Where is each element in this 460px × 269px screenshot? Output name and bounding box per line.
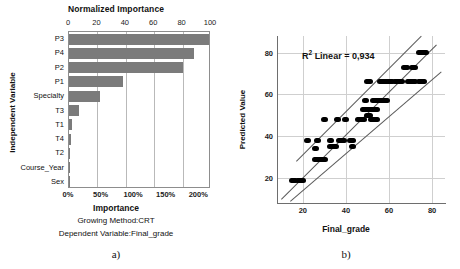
bar-chart-top-tick: 0 [66,18,70,27]
bar-chart-category-label: Sex [51,176,64,185]
scatter-plot-area [277,36,445,203]
bar-chart-bar-fill [69,62,183,73]
bar-chart-category-label: T3 [55,105,64,114]
scatter-data-point [422,50,429,55]
bar-chart-subtitle-growing-method: Growing Method:CRT [0,216,232,225]
bar-chart-bar [69,119,210,130]
bar-chart-bar [69,105,210,116]
bar-chart-top-tick: 100 [204,18,217,27]
scatter-x-axis-title: Final_grade [232,224,460,234]
bar-chart-category-label: P4 [55,48,64,57]
bar-chart-bottom-tick: 50% [93,190,108,199]
scatter-x-tick-label: 20 [299,206,307,215]
scatter-data-point [342,117,349,122]
bar-chart-category-label: P2 [55,62,64,71]
scatter-data-point [321,117,328,122]
bar-chart-top-tick: 20 [92,18,100,27]
scatter-data-point [334,117,341,122]
scatter-y-axis-ticks: 20406080 [244,36,273,204]
scatter-data-point [332,144,339,149]
bar-chart-bottom-tick: 100% [124,190,143,199]
scatter-r-squared-annotation: R2 Linear = 0,934 [302,49,374,61]
scatter-x-tick-label: 60 [385,206,393,215]
bar-chart-bar [69,162,210,173]
bar-chart-bar-fill [69,105,79,116]
bar-chart-bar-fill [69,134,71,145]
bar-chart-category-label: T4 [55,134,64,143]
scatter-y-tick-label: 20 [265,173,273,182]
scatter-data-point [314,138,321,143]
bar-chart-bar-fill [69,176,70,187]
bar-chart-bottom-axis: 0%50%100%150%200% [68,190,210,202]
bar-chart-category-label: T2 [55,148,64,157]
bar-chart-category-label: P3 [55,34,64,43]
bar-chart-bar-fill [69,119,72,130]
bar-chart-subtitle-dependent-variable: Dependent Variable:Final_grade [0,229,232,238]
scatter-data-point [373,107,380,112]
panel-a-caption: a) [0,248,232,260]
bar-chart-bar [69,76,210,87]
bar-chart-bar [69,148,210,159]
scatter-data-point [299,178,306,183]
scatter-data-point [321,157,328,162]
scatter-x-tick-label: 40 [342,206,350,215]
scatter-x-tick-label: 80 [428,206,436,215]
bar-chart-bar-fill [69,148,70,159]
bar-chart-category-label: P1 [55,76,64,85]
scatter-x-axis-ticks: 20406080 [277,206,445,218]
bar-chart-plot-area [68,31,210,188]
bar-chart-category-label: Course_Year [20,162,64,171]
panel-b-scatter-chart: Predicted Value 20406080 R2 Linear = 0,9… [232,0,460,269]
scatter-gridline-vertical [389,36,390,203]
bar-chart-bar-fill [69,34,210,45]
bar-chart-bar-fill [69,48,194,59]
bar-chart-bar [69,91,210,102]
scatter-data-point [327,138,334,143]
bar-chart-x-axis-title: Importance [0,203,232,213]
scatter-gridline-vertical [432,36,433,203]
bar-chart-bar [69,176,210,187]
figure-root: Normalized Importance 020406080100 Indep… [0,0,460,269]
scatter-data-point [362,98,369,103]
scatter-data-point [304,138,311,143]
scatter-data-point [349,138,356,143]
bar-chart-category-labels: P3P4P2P1SpecialtyT3T1T4T2Course_YearSex [16,31,66,188]
bar-chart-bar-fill [69,91,100,102]
scatter-y-tick-label: 40 [265,132,273,141]
bar-chart-bar [69,134,210,145]
bar-chart-bar [69,34,210,45]
panel-b-caption: b) [232,248,460,260]
bar-chart-top-tick: 40 [121,18,129,27]
scatter-data-point [349,144,356,149]
scatter-y-axis-line [277,36,278,204]
bar-chart-top-tick: 80 [177,18,185,27]
bar-chart-bar [69,62,210,73]
scatter-data-point [312,146,319,151]
panel-a-importance-chart: Normalized Importance 020406080100 Indep… [0,0,232,269]
scatter-data-point [411,65,418,70]
bar-chart-bar-fill [69,162,70,173]
bar-chart-top-tick: 60 [149,18,157,27]
bar-chart-bottom-tick: 0% [63,190,74,199]
scatter-y-tick-label: 80 [265,48,273,57]
bar-chart-top-axis: 020406080100 [68,18,210,30]
scatter-y-tick-label: 60 [265,90,273,99]
bar-chart-bottom-tick: 200% [189,190,208,199]
scatter-data-point [373,117,380,122]
bar-chart-bar-fill [69,76,123,87]
bar-chart-category-label: T1 [55,119,64,128]
bar-chart-title: Normalized Importance [0,4,232,14]
bar-chart-bar [69,48,210,59]
bar-chart-category-label: Specialty [34,91,64,100]
bar-chart-bottom-tick: 150% [156,190,175,199]
scatter-x-axis-line [277,203,446,204]
